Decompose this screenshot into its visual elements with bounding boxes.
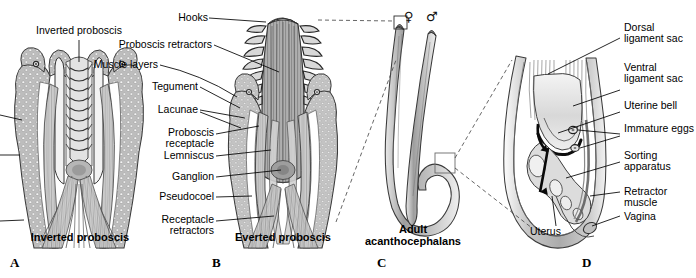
- label-muscle-layers: Muscle layers: [40, 59, 158, 71]
- caption-panel-b: Everted proboscis: [213, 231, 353, 243]
- panel-c-artwork: [385, 16, 459, 236]
- caption-panel-c-line2: acanthocephalans: [352, 235, 474, 247]
- label-immature-eggs: Immature eggs: [624, 123, 696, 135]
- label-lemniscus: Lemniscus: [96, 150, 214, 162]
- male-symbol-icon: ♂: [426, 9, 438, 24]
- panel-letter-d: D: [582, 255, 591, 271]
- panel-letter-c: C: [377, 255, 386, 271]
- caption-panel-c-line1: Adult: [358, 223, 468, 235]
- label-tegument: Tegument: [90, 81, 198, 93]
- panel-letter-a: A: [10, 255, 19, 271]
- label-hooks: Hooks: [60, 12, 208, 24]
- label-ventral-ligament-sac-line2: ligament sac: [624, 73, 696, 85]
- label-proboscis-receptacle-line2: receptacle: [96, 138, 214, 150]
- label-ganglion: Ganglion: [96, 171, 214, 183]
- label-retractor-muscle-line2: muscle: [624, 197, 696, 209]
- label-proboscis-retractors: Proboscis retractors: [40, 39, 212, 51]
- label-dorsal-ligament-sac-line2: ligament sac: [624, 33, 696, 45]
- label-sorting-apparatus-line2: apparatus: [624, 161, 696, 173]
- label-pseudocoel: Pseudocoel: [96, 191, 214, 203]
- caption-panel-a: Inverted proboscis: [10, 231, 150, 243]
- label-uterus: Uterus: [530, 226, 590, 238]
- panel-b-artwork: [228, 18, 337, 248]
- female-symbol-icon: ♀: [404, 9, 414, 24]
- panel-letter-b: B: [212, 255, 221, 271]
- acanthocephalan-anatomy-figure: Inverted proboscis Hooks Proboscis retra…: [0, 0, 696, 278]
- label-inverted-proboscis-top: Inverted proboscis: [8, 25, 150, 37]
- label-vagina: Vagina: [624, 211, 696, 223]
- label-uterine-bell: Uterine bell: [624, 100, 696, 112]
- label-lacunae: Lacunae: [98, 104, 198, 116]
